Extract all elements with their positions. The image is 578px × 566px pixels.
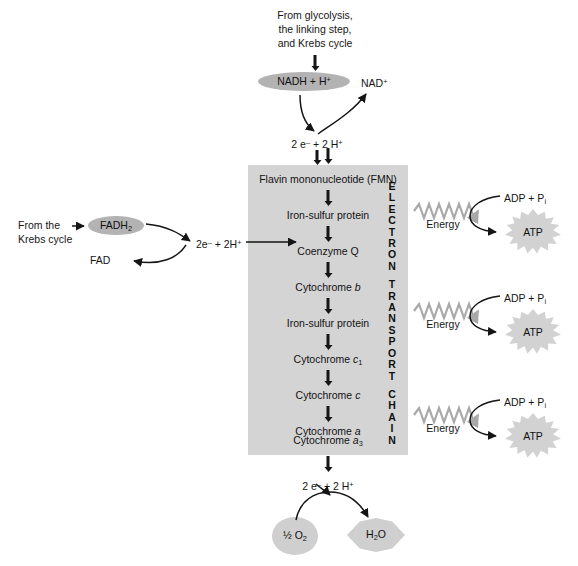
fadh2-to-electrons-arrow bbox=[146, 224, 190, 241]
adp-to-atp-curve-2 bbox=[470, 296, 500, 332]
left-electrons-label: 2e– + 2H+ bbox=[196, 236, 242, 251]
atp-burst-1: ATP bbox=[505, 209, 561, 255]
adp-label-3: ADP + Pi bbox=[504, 396, 546, 412]
etc-step-cyt-c: Cytochrome c bbox=[296, 389, 361, 401]
energy-label-3: Energy bbox=[426, 422, 459, 435]
arrow-source-to-nadh bbox=[311, 55, 320, 71]
fad-label: FAD bbox=[90, 254, 110, 267]
nadh-to-electrons-arrow bbox=[300, 95, 314, 131]
atp-burst-3: ATP bbox=[505, 413, 561, 459]
adp-to-atp-curve-1 bbox=[470, 196, 500, 232]
energy-label-2: Energy bbox=[426, 318, 459, 331]
electrons-to-nad-arrow bbox=[318, 94, 366, 134]
energy-squiggle-1 bbox=[414, 204, 478, 218]
atp-label-3: ATP bbox=[523, 430, 543, 442]
etc-step-fes-2: Iron-sulfur protein bbox=[287, 317, 369, 329]
adp-label-2: ADP + Pi bbox=[504, 292, 546, 308]
energy-squiggle-3 bbox=[414, 408, 478, 422]
electrons-to-fad-arrow bbox=[134, 245, 186, 263]
adp-to-atp-curve-3 bbox=[470, 400, 500, 436]
oxygen-circle: ½ O2 bbox=[272, 517, 318, 555]
krebs-source-line-2: Krebs cycle bbox=[18, 233, 72, 246]
etc-step-cyt-b: Cytochrome b bbox=[295, 281, 360, 293]
nad-label: NAD+ bbox=[361, 75, 388, 90]
water-label: H2O bbox=[366, 528, 386, 542]
oxygen-label: ½ O2 bbox=[283, 529, 307, 543]
etc-vertical-label: ELECTRON TRANSPORT CHAIN bbox=[385, 181, 399, 446]
etc-step-coenzyme-q: Coenzyme Q bbox=[297, 245, 358, 257]
water-blob: H2O bbox=[347, 518, 405, 552]
fadh2-pill: FADH2 bbox=[88, 216, 144, 235]
etc-step-fes-1: Iron-sulfur protein bbox=[287, 209, 369, 221]
etc-step-fmn: Flavin mononucleotide (FMN) bbox=[259, 173, 397, 185]
atp-label-1: ATP bbox=[523, 226, 543, 238]
energy-squiggle-2 bbox=[414, 304, 478, 318]
fadh2-label: FADH2 bbox=[100, 219, 132, 233]
top-electrons-label: 2 e– + 2 H+ bbox=[291, 136, 342, 151]
atp-burst-2: ATP bbox=[505, 309, 561, 355]
etc-step-cyt-a3: Cytochrome a3 bbox=[293, 434, 363, 448]
etc-step-cyt-c1: Cytochrome c1 bbox=[294, 353, 363, 367]
source-line-1: From glycolysis, bbox=[277, 9, 352, 22]
bottom-electrons-label: 2 e– + 2 H+ bbox=[302, 478, 353, 493]
source-line-2: the linking step, bbox=[279, 23, 352, 36]
oxygen-to-water-arrow bbox=[296, 492, 368, 520]
atp-label-2: ATP bbox=[523, 326, 543, 338]
adp-label-1: ADP + Pi bbox=[504, 192, 546, 208]
energy-label-1: Energy bbox=[426, 218, 459, 231]
source-line-3: and Krebs cycle bbox=[278, 37, 353, 50]
krebs-source-line-1: From the bbox=[18, 219, 60, 232]
etc-diagram: From glycolysis, the linking step, and K… bbox=[0, 0, 578, 566]
nadh-label: NADH + H+ bbox=[277, 75, 331, 87]
nadh-pill: NADH + H+ bbox=[258, 72, 350, 91]
